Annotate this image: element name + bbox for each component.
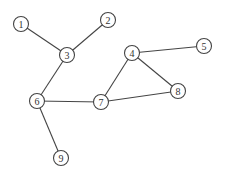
node-label: 5 bbox=[202, 41, 207, 52]
node-2: 2 bbox=[101, 13, 116, 28]
node-label: 3 bbox=[65, 50, 70, 61]
graph-canvas: 123456789 bbox=[0, 0, 225, 181]
edge-7-4 bbox=[101, 53, 132, 102]
edge-4-8 bbox=[132, 53, 178, 91]
node-label: 2 bbox=[106, 15, 111, 26]
node-3: 3 bbox=[60, 48, 75, 63]
edge-7-8 bbox=[101, 91, 178, 102]
node-4: 4 bbox=[125, 46, 140, 61]
nodes-layer: 123456789 bbox=[14, 13, 212, 166]
edge-2-3 bbox=[67, 20, 108, 55]
edge-3-6 bbox=[37, 55, 67, 101]
node-label: 7 bbox=[99, 97, 104, 108]
edge-4-5 bbox=[132, 46, 204, 53]
edge-6-7 bbox=[37, 101, 101, 102]
node-7: 7 bbox=[94, 95, 109, 110]
node-6: 6 bbox=[30, 94, 45, 109]
node-9: 9 bbox=[54, 151, 69, 166]
edge-1-3 bbox=[21, 24, 67, 55]
node-label: 9 bbox=[59, 153, 64, 164]
node-label: 4 bbox=[130, 48, 135, 59]
node-label: 1 bbox=[19, 19, 24, 30]
node-label: 8 bbox=[176, 86, 181, 97]
node-1: 1 bbox=[14, 17, 29, 32]
edge-6-9 bbox=[37, 101, 61, 158]
node-5: 5 bbox=[197, 39, 212, 54]
node-8: 8 bbox=[171, 84, 186, 99]
node-label: 6 bbox=[35, 96, 40, 107]
